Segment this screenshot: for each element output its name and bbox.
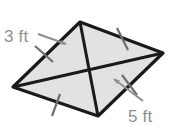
rhombus-diagram: 3 ft 5 ft bbox=[0, 0, 175, 127]
label-5ft: 5 ft bbox=[128, 107, 153, 126]
geometry-figure: 3 ft 5 ft bbox=[0, 0, 175, 127]
label-3ft: 3 ft bbox=[4, 27, 29, 46]
